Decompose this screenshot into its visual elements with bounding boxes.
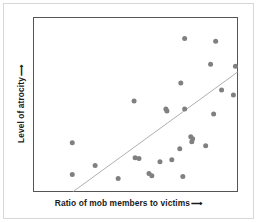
data-point (219, 88, 224, 93)
data-point (231, 93, 236, 98)
plot-canvas (0, 0, 257, 222)
data-point (233, 64, 238, 69)
y-axis-title-wrapper: Level of atrocity⟶ (10, 24, 26, 184)
y-axis-arrow: ⟶ (16, 65, 26, 77)
data-point (157, 159, 162, 164)
data-point (190, 136, 195, 141)
data-point (213, 39, 218, 44)
data-point (70, 172, 75, 177)
data-point (182, 107, 187, 112)
plot-area-border (34, 18, 238, 192)
data-point (208, 62, 213, 67)
y-axis-title: Level of atrocity⟶ (16, 65, 26, 143)
data-point (180, 174, 185, 179)
scatter-plot-figure: Ratio of mob members to victims⟶ Level o… (0, 0, 257, 222)
data-point (136, 156, 141, 161)
y-axis-title-text: Level of atrocity (16, 77, 26, 143)
data-point (203, 143, 208, 148)
data-point (178, 81, 183, 86)
data-point (164, 108, 169, 113)
data-point (93, 163, 98, 168)
x-axis-title: Ratio of mob members to victims⟶ (0, 198, 257, 208)
data-point (116, 176, 121, 181)
x-axis-arrow: ⟶ (190, 198, 202, 208)
data-point (132, 99, 137, 104)
data-point (169, 157, 174, 162)
data-point (177, 146, 182, 151)
plot-stage: Ratio of mob members to victims⟶ Level o… (0, 0, 257, 222)
x-axis-title-text: Ratio of mob members to victims (55, 198, 190, 208)
data-point (211, 111, 216, 116)
data-point (182, 36, 187, 41)
data-point (149, 173, 154, 178)
data-point (70, 140, 75, 145)
